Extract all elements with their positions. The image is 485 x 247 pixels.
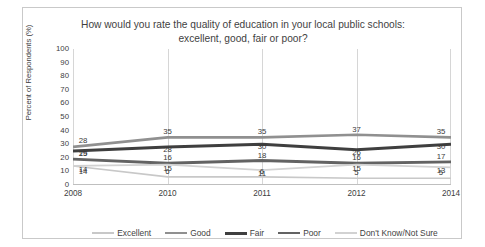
x-axis-ticks: 20082010201120122014 [73, 189, 451, 203]
plot-area: 1466552835353735252830263019161816171415… [73, 49, 451, 185]
y-tick-label: 10 [60, 167, 69, 175]
data-label: 17 [437, 153, 446, 161]
x-tick-label: 2010 [158, 189, 176, 198]
y-tick-label: 80 [60, 72, 69, 80]
data-label: 19 [79, 150, 88, 158]
data-label: 28 [79, 137, 88, 145]
y-axis-label: Percent of Respondents (%) [24, 0, 33, 148]
legend-label: Don't Know/Not Sure [360, 228, 438, 238]
y-axis-ticks: 1009080706050403020100 [47, 49, 69, 185]
legend-item[interactable]: Excellent [92, 228, 151, 238]
x-tick-label: 2012 [347, 189, 365, 198]
series-line [73, 159, 451, 163]
series-lines [73, 49, 451, 185]
legend-swatch [165, 232, 187, 235]
x-tick-label: 2014 [442, 189, 460, 198]
legend-label: Poor [303, 228, 321, 238]
legend-label: Fair [250, 228, 264, 238]
x-tick-label: 2008 [64, 189, 82, 198]
data-label: 16 [163, 154, 172, 162]
y-tick-label: 30 [60, 140, 69, 148]
legend-swatch [335, 232, 357, 234]
data-label: 11 [258, 170, 266, 178]
legend-label: Excellent [117, 228, 151, 238]
y-tick-label: 40 [60, 127, 69, 135]
legend-swatch [278, 232, 300, 235]
chart-title: How would you rate the quality of educat… [63, 18, 423, 46]
legend-item[interactable]: Good [165, 228, 211, 238]
legend-swatch [92, 232, 114, 234]
data-label: 16 [352, 154, 361, 162]
legend-swatch [225, 232, 247, 235]
data-label: 30 [437, 143, 446, 151]
y-tick-label: 0 [65, 181, 69, 189]
y-tick-label: 70 [60, 86, 69, 94]
y-tick-label: 90 [60, 59, 69, 67]
legend-item[interactable]: Poor [278, 228, 321, 238]
y-tick-label: 60 [60, 99, 69, 107]
y-tick-label: 20 [60, 154, 69, 162]
data-label: 35 [437, 128, 446, 136]
data-label: 18 [258, 152, 267, 160]
x-tick-label: 2011 [253, 189, 271, 198]
legend-item[interactable]: Don't Know/Not Sure [335, 228, 438, 238]
chart-legend: ExcellentGoodFairPoorDon't Know/Not Sure [53, 226, 477, 240]
data-label: 37 [352, 126, 361, 134]
data-label: 15 [163, 165, 172, 173]
data-label: 14 [79, 166, 88, 174]
data-label: 13 [437, 167, 446, 175]
legend-item[interactable]: Fair [225, 228, 264, 238]
legend-label: Good [190, 228, 211, 238]
y-tick-label: 100 [56, 45, 69, 53]
data-label: 35 [163, 128, 172, 136]
data-label: 35 [258, 128, 267, 136]
data-label: 15 [352, 165, 361, 173]
y-tick-label: 50 [60, 113, 69, 121]
chart-frame: How would you rate the quality of educat… [22, 7, 462, 239]
